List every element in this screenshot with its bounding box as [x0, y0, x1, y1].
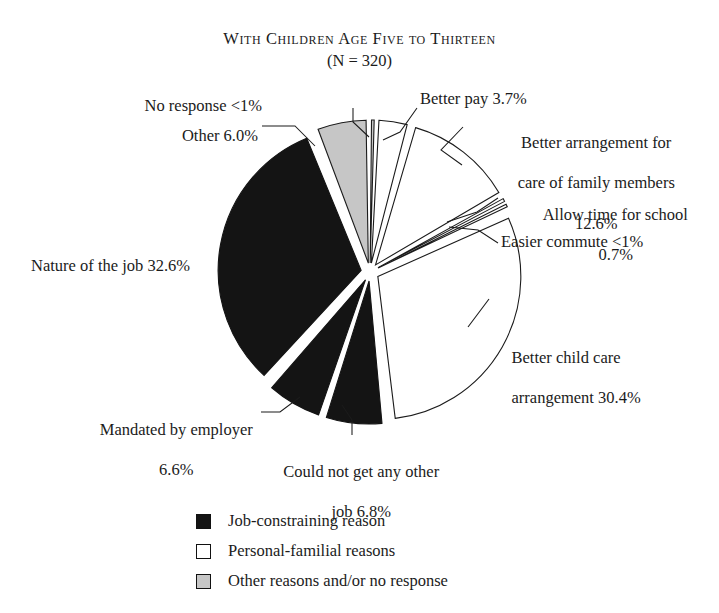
- label-no-response: No response <1%: [0, 96, 262, 116]
- label-line-1: Better child care: [512, 348, 621, 367]
- label-easier-commute: Easier commute <1%: [501, 232, 643, 252]
- legend-item-label: Job-constraining reason: [228, 511, 385, 531]
- label-line-1: Allow time for school: [543, 205, 688, 224]
- legend-item-other-reasons[interactable]: Other reasons and/or no response: [196, 566, 596, 596]
- label-line-1: Mandated by employer: [100, 420, 253, 439]
- label-line-1: Could not get any other: [283, 462, 439, 481]
- label-line-2: 6.6%: [159, 460, 193, 479]
- legend-item-job-constraining[interactable]: Job-constraining reason: [196, 506, 596, 536]
- pie-chart-figure: With Children Age Five to Thirteen (N = …: [0, 0, 719, 613]
- label-line-1: Better arrangement for: [521, 133, 671, 152]
- label-nature-of-the-job: Nature of the job 32.6%: [31, 256, 190, 276]
- legend-swatch-icon: [196, 574, 211, 589]
- legend-swatch-icon: [196, 544, 211, 559]
- legend-item-label: Other reasons and/or no response: [228, 571, 448, 591]
- legend-item-personal-familial[interactable]: Personal-familial reasons: [196, 536, 596, 566]
- label-better-pay: Better pay 3.7%: [420, 89, 527, 109]
- label-line-2: arrangement 30.4%: [512, 388, 641, 407]
- label-better-child-care-arrangement: Better child care arrangement 30.4%: [495, 328, 715, 429]
- legend-swatch-icon: [196, 514, 211, 529]
- legend-item-label: Personal-familial reasons: [228, 541, 395, 561]
- label-mandated-by-employer: Mandated by employer 6.6%: [75, 400, 261, 501]
- chart-legend: Job-constraining reason Personal-familia…: [196, 506, 596, 596]
- label-other: Other 6.0%: [0, 126, 258, 146]
